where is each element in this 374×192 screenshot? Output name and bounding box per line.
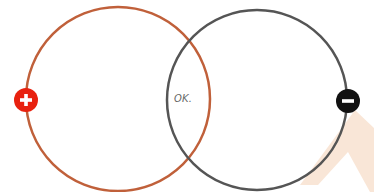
venn-diagram: OK. (0, 0, 374, 192)
negative-circle (167, 10, 347, 190)
minus-icon (336, 89, 360, 113)
background-chevron-shape (300, 110, 374, 192)
overlap-label: OK. (174, 93, 192, 104)
plus-icon (14, 88, 38, 112)
